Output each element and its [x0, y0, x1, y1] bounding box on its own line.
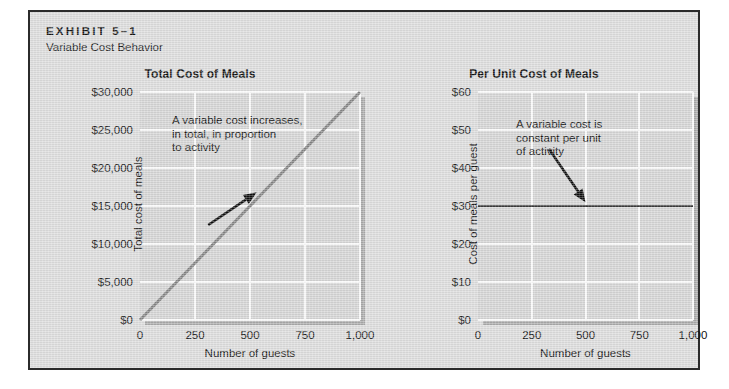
chart-title: Per Unit Cost of Meals [366, 67, 702, 81]
y-tick-label: $5,000 [98, 276, 133, 288]
x-tick-label: 500 [576, 329, 595, 341]
plot-area: $0$5,000$10,000$15,000$20,000$25,000$30,… [140, 92, 360, 320]
annotation-text: A variable cost is constant per unit of … [516, 118, 602, 159]
y-tick-label: $0 [458, 314, 471, 326]
y-tick-label: $20,000 [91, 162, 133, 174]
y-tick-label: $15,000 [91, 200, 133, 212]
annotation-text: A variable cost increases, in total, in … [172, 114, 302, 155]
chart-total-cost-of-meals: Total Cost of Meals $0$5,000$10,000$15,0… [30, 12, 370, 368]
x-tick-label: 500 [240, 329, 259, 341]
x-tick-label: 0 [475, 329, 481, 341]
arrow-shaft [208, 200, 246, 225]
y-tick-label: $25,000 [91, 124, 133, 136]
x-tick-label: 250 [522, 329, 541, 341]
y-tick-label: $60 [452, 86, 471, 98]
exhibit-frame: EXHIBIT 5–1 Variable Cost Behavior Total… [28, 10, 700, 370]
arrow-head-icon [243, 192, 257, 204]
x-tick-label: 250 [185, 329, 204, 341]
x-tick-label: 750 [630, 329, 649, 341]
x-tick-label: 750 [295, 329, 314, 341]
x-axis-title: Number of guests [140, 347, 360, 359]
plot-area: $0$10$20$30$40$50$6002505007501,000 A va… [478, 92, 693, 320]
x-tick-label: 1,000 [679, 329, 708, 341]
x-tick-label: 0 [137, 329, 143, 341]
x-axis-title: Number of guests [478, 347, 693, 359]
chart-per-unit-cost-of-meals: Per Unit Cost of Meals $0$10$20$30$40$50… [366, 12, 702, 368]
y-tick-label: $30,000 [91, 86, 133, 98]
y-tick-label: $10,000 [91, 238, 133, 250]
chart-title: Total Cost of Meals [30, 67, 370, 81]
arrow-head-icon [574, 188, 586, 202]
y-tick-label: $0 [120, 314, 133, 326]
y-axis-title: Cost of meals per guest [467, 119, 479, 289]
y-axis-title: Total cost of meals [132, 124, 144, 284]
